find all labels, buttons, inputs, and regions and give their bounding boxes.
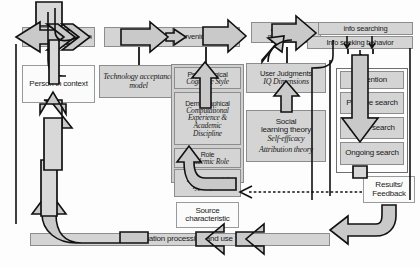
arrow-demographical-up xyxy=(192,62,218,108)
arrows-layer xyxy=(0,0,420,268)
arrow-down-infosearching-2 xyxy=(369,36,375,48)
arrow-vertical-into-person xyxy=(49,40,59,84)
arrow-activating-mechanism-1-right xyxy=(121,22,168,52)
diagram-canvas: Context of interaction Person in context… xyxy=(0,0,420,268)
arrow-environmental-curved-up xyxy=(177,146,236,190)
arrow-intervening-variables-right xyxy=(203,20,246,52)
arrow-search-stages-down xyxy=(342,55,378,142)
arrow-ongoing-to-results xyxy=(353,166,367,178)
arrow-down-infosearching-1 xyxy=(344,36,350,48)
arrow-social-to-judgments-up xyxy=(274,81,299,112)
arrow-left-vertical-shaft xyxy=(44,118,62,170)
arrow-bottom-bar-left-1 xyxy=(236,224,264,254)
arrow-bottom-bar-left-2 xyxy=(196,224,224,254)
arrow-results-to-processing xyxy=(330,205,396,244)
